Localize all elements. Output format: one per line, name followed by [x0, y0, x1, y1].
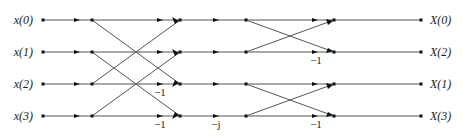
input-label-1: x(1)	[13, 45, 33, 59]
fft-flow-graph: x(0) x(1) x(2) x(3) X(0) X(2) X(1) X(3) …	[0, 0, 462, 140]
weight-labels: −1 −1 −j −1 −1	[154, 54, 322, 130]
output-label-0: X(0)	[429, 13, 451, 27]
output-label-3: X(3)	[429, 109, 451, 123]
input-label-0: x(0)	[13, 13, 33, 27]
nodes	[42, 19, 423, 118]
weight-stage2-row1: −1	[310, 54, 322, 66]
output-label-2: X(1)	[429, 77, 451, 91]
output-label-1: X(2)	[429, 45, 451, 59]
edges	[43, 20, 421, 116]
input-labels: x(0) x(1) x(2) x(3)	[13, 13, 33, 123]
input-label-3: x(3)	[13, 109, 33, 123]
weight-stage1-row3: −1	[154, 118, 166, 130]
weight-stage2-row3: −1	[310, 118, 322, 130]
output-labels: X(0) X(2) X(1) X(3)	[429, 13, 451, 123]
input-label-2: x(2)	[13, 77, 33, 91]
arrowheads	[74, 17, 333, 119]
weight-stage1-row2: −1	[154, 86, 166, 98]
twiddle-row3: −j	[211, 118, 220, 130]
